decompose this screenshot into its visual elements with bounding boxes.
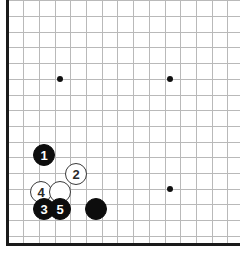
board-edge-bottom — [6, 243, 240, 246]
grid-line-horizontal — [6, 47, 240, 48]
grid-line-horizontal — [6, 110, 240, 111]
go-board[interactable]: 12435 — [0, 0, 240, 255]
stone-move-number: 1 — [40, 148, 47, 161]
grid-line-horizontal — [6, 16, 240, 17]
stone-5[interactable]: 5 — [49, 198, 71, 220]
stone-move-number: 3 — [40, 202, 47, 215]
grid-line-vertical — [180, 0, 181, 243]
go-diagram-figure: 12435 — [0, 0, 240, 255]
grid-line-horizontal — [6, 63, 240, 64]
grid-line-vertical — [149, 0, 150, 243]
star-point-lower-right-icon — [167, 186, 173, 192]
grid-line-horizontal — [6, 79, 240, 80]
grid-line-vertical — [165, 0, 166, 243]
grid-line-vertical — [196, 0, 197, 243]
grid-line-horizontal — [6, 173, 240, 174]
grid-line-horizontal — [6, 32, 240, 33]
grid-line-horizontal — [6, 220, 240, 221]
stone-move-number: 5 — [56, 202, 63, 215]
grid-line-horizontal — [6, 0, 240, 1]
stone-move-number: 4 — [37, 185, 44, 198]
grid-line-horizontal — [6, 126, 240, 127]
stone-1[interactable]: 1 — [33, 144, 55, 166]
grid-line-vertical — [133, 0, 134, 243]
grid-line-horizontal — [6, 142, 240, 143]
stone-black-plain[interactable] — [85, 198, 107, 220]
grid-line-vertical — [212, 0, 213, 243]
star-point-upper-left-icon — [57, 76, 63, 82]
grid-line-horizontal — [6, 95, 240, 96]
grid-line-vertical — [117, 0, 118, 243]
board-edge-left — [6, 0, 9, 246]
stone-move-number: 2 — [72, 167, 79, 180]
star-point-upper-right-icon — [167, 76, 173, 82]
grid-line-vertical — [23, 0, 24, 243]
stone-2[interactable]: 2 — [65, 163, 87, 185]
grid-line-vertical — [227, 0, 228, 243]
grid-line-horizontal — [6, 236, 240, 237]
